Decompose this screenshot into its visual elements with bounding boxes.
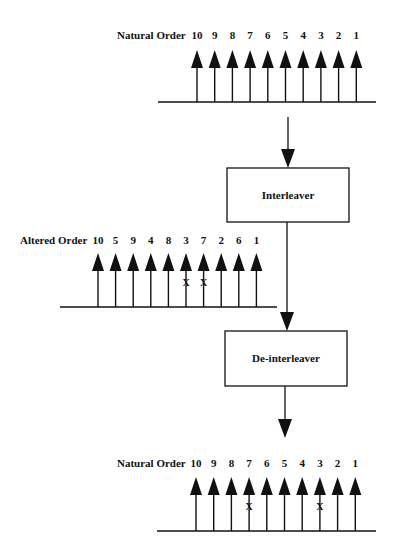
- arrowhead-up-icon: [225, 477, 237, 495]
- arrowhead-up-icon: [233, 253, 245, 271]
- arrowhead-up-icon: [198, 253, 210, 271]
- bottom-row-numbers: 10987654321: [191, 457, 359, 469]
- order-number: 8: [230, 29, 236, 41]
- symbol-arrow: [280, 50, 292, 102]
- order-number: 1: [354, 29, 360, 41]
- symbol-arrow: [349, 477, 361, 531]
- arrowhead-up-icon: [226, 50, 238, 68]
- symbol-arrow: [262, 50, 274, 102]
- order-number: 6: [236, 234, 242, 246]
- symbol-arrow: [190, 477, 202, 531]
- arrowhead-up-icon: [243, 477, 255, 495]
- symbol-arrow: [332, 477, 344, 531]
- bottom-row-arrows: XX: [190, 477, 361, 531]
- arrowhead-up-icon: [145, 253, 157, 271]
- arrowhead-up-icon: [333, 50, 345, 68]
- symbol-arrow: [226, 50, 238, 102]
- symbol-arrow: [244, 50, 256, 102]
- symbol-arrow: [225, 477, 237, 531]
- arrowhead-down-icon: [278, 419, 292, 438]
- order-number: 7: [201, 234, 207, 246]
- symbol-arrow: [350, 50, 362, 102]
- arrowhead-up-icon: [250, 253, 262, 271]
- order-number: 9: [130, 234, 136, 246]
- symbol-arrow: [127, 253, 139, 307]
- order-number: 3: [318, 29, 324, 41]
- arrowhead-up-icon: [314, 477, 326, 495]
- symbol-arrow: X: [314, 477, 326, 531]
- arrowhead-up-icon: [127, 253, 139, 271]
- symbol-arrow: [208, 477, 220, 531]
- symbol-arrow: [279, 477, 291, 531]
- order-number: 4: [300, 29, 306, 41]
- order-number: 5: [113, 234, 119, 246]
- symbol-arrow: [110, 253, 122, 307]
- order-number: 2: [218, 234, 224, 246]
- arrowhead-down-icon: [280, 312, 294, 331]
- order-number: 4: [148, 234, 154, 246]
- order-number: 8: [229, 457, 235, 469]
- top-row: Natural Order 10987654321: [117, 29, 376, 102]
- arrowhead-up-icon: [350, 50, 362, 68]
- order-number: 2: [335, 457, 341, 469]
- order-number: 5: [282, 457, 288, 469]
- arrowhead-up-icon: [280, 50, 292, 68]
- order-number: 6: [265, 29, 271, 41]
- interleaver-label: Interleaver: [262, 189, 315, 201]
- order-number: 3: [183, 234, 189, 246]
- arrowhead-up-icon: [110, 253, 122, 271]
- top-row-arrows: [191, 50, 362, 102]
- order-number: 2: [336, 29, 342, 41]
- symbol-arrow: [209, 50, 221, 102]
- arrowhead-up-icon: [162, 253, 174, 271]
- arrowhead-up-icon: [349, 477, 361, 495]
- order-number: 7: [246, 457, 252, 469]
- middle-row-label: Altered Order: [20, 234, 87, 246]
- symbol-arrow: [261, 477, 273, 531]
- error-mark: X: [200, 277, 208, 288]
- error-mark: X: [245, 501, 253, 512]
- order-number: 10: [192, 29, 204, 41]
- order-number: 3: [317, 457, 323, 469]
- arrowhead-up-icon: [297, 50, 309, 68]
- arrowhead-up-icon: [279, 477, 291, 495]
- symbol-arrow: [333, 50, 345, 102]
- order-number: 1: [254, 234, 260, 246]
- symbol-arrow: [315, 50, 327, 102]
- order-number: 8: [166, 234, 172, 246]
- symbol-arrow: [191, 50, 203, 102]
- error-mark: X: [182, 277, 190, 288]
- arrowhead-up-icon: [209, 50, 221, 68]
- interleaver-diagram: Natural Order 10987654321 Interleaver Al…: [0, 0, 401, 554]
- flow-arrow-3: [278, 386, 292, 438]
- symbol-arrow: [250, 253, 262, 307]
- symbol-arrow: [297, 50, 309, 102]
- symbol-arrow: [145, 253, 157, 307]
- arrowhead-up-icon: [191, 50, 203, 68]
- order-number: 4: [299, 457, 305, 469]
- arrowhead-up-icon: [208, 477, 220, 495]
- symbol-arrow: [215, 253, 227, 307]
- order-number: 1: [353, 457, 359, 469]
- symbol-arrow: X: [198, 253, 210, 307]
- order-number: 5: [283, 29, 289, 41]
- top-row-numbers: 10987654321: [192, 29, 360, 41]
- arrowhead-down-icon: [281, 149, 295, 168]
- order-number: 9: [211, 457, 217, 469]
- arrowhead-up-icon: [180, 253, 192, 271]
- symbol-arrow: [233, 253, 245, 307]
- symbol-arrow: [162, 253, 174, 307]
- arrowhead-up-icon: [261, 477, 273, 495]
- top-row-label: Natural Order: [117, 29, 186, 41]
- bottom-row: Natural Order 10987654321 XX: [117, 457, 376, 531]
- error-mark: X: [316, 501, 324, 512]
- arrowhead-up-icon: [92, 253, 104, 271]
- bottom-row-label: Natural Order: [117, 457, 186, 469]
- order-number: 10: [93, 234, 105, 246]
- flow-arrow-2: [280, 222, 294, 331]
- deinterleaver-label: De-interleaver: [252, 352, 320, 364]
- order-number: 6: [264, 457, 270, 469]
- symbol-arrow: X: [180, 253, 192, 307]
- arrowhead-up-icon: [262, 50, 274, 68]
- interleaver-block: Interleaver: [227, 168, 349, 222]
